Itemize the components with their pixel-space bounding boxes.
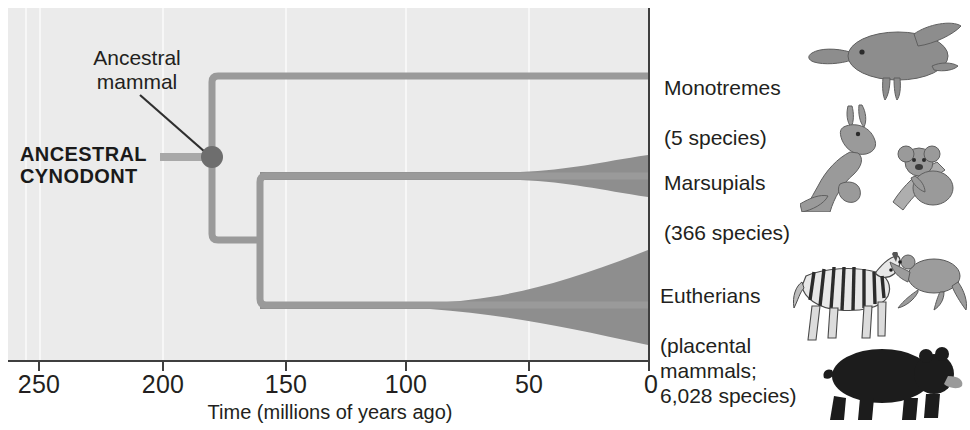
x-axis-tick-label: 250 — [18, 370, 60, 399]
plot-right-border — [648, 8, 650, 361]
kangaroo-illustration — [800, 100, 898, 212]
branch-monotremes — [212, 76, 648, 157]
x-axis-tick-label: 0 — [644, 370, 658, 399]
callout-leader-line — [140, 95, 205, 152]
clade-species-count: (366 species) — [664, 220, 790, 245]
koala-illustration — [885, 140, 963, 216]
clade-label-eutherians: Eutherians (placental mammals; 6,028 spe… — [660, 258, 797, 430]
clade-name: Monotremes — [664, 75, 781, 100]
eutherians-wedge — [260, 250, 648, 345]
x-axis-tick-label: 200 — [142, 370, 184, 399]
ancestral-mammal-label: Ancestral mammal — [62, 46, 212, 94]
platypus-illustration — [806, 12, 964, 104]
branch-to-therian-split — [212, 157, 260, 240]
x-axis-tick-label: 100 — [385, 370, 427, 399]
bear-illustration — [818, 340, 964, 422]
clade-name: Eutherians — [660, 283, 797, 308]
ancestral-mammal-node-marker — [201, 146, 223, 168]
x-axis-title: Time (millions of years ago) — [0, 401, 660, 424]
x-axis-tick-label: 150 — [265, 370, 307, 399]
ancestral-cynodont-line-2: CYNODONT — [20, 165, 147, 187]
clade-label-marsupials: Marsupials (366 species) — [664, 145, 790, 270]
mouse-illustration — [884, 250, 968, 312]
ancestral-cynodont-line-1: ANCESTRAL — [20, 143, 147, 165]
x-axis-tick-label: 50 — [515, 370, 543, 399]
clade-name: Marsupials — [664, 170, 790, 195]
x-axis-line — [8, 360, 650, 362]
ancestral-cynodont-label: ANCESTRAL CYNODONT — [20, 143, 147, 187]
clade-species-count: (placental mammals; 6,028 species) — [660, 333, 797, 408]
phylogeny-figure: 250 200 150 100 50 0 Time (millions of y… — [0, 0, 970, 430]
